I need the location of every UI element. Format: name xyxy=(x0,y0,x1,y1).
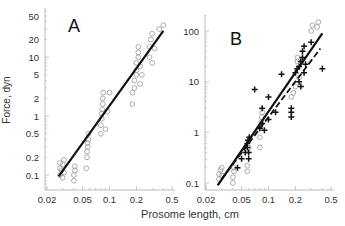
data-point-cross xyxy=(308,39,314,45)
x-tick-label: 0.1 xyxy=(262,194,275,205)
data-point-circle xyxy=(85,155,90,160)
data-point-circle xyxy=(132,86,137,91)
data-point-cross xyxy=(288,105,294,111)
data-point-circle xyxy=(136,50,141,55)
data-point-circle xyxy=(98,123,103,128)
x-tick-label: 0.05 xyxy=(73,194,92,205)
data-point-circle xyxy=(72,178,77,183)
data-point-circle xyxy=(100,96,105,101)
x-tick-label: 0.5 xyxy=(165,194,178,205)
data-point-circle xyxy=(72,173,77,178)
data-point-circle xyxy=(157,27,162,32)
data-point-circle xyxy=(150,31,155,36)
x-tick-label: 0.5 xyxy=(324,194,337,205)
y-tick-label: 0.1 xyxy=(186,178,199,189)
data-point-circle xyxy=(84,166,89,171)
x-tick-label: 0.02 xyxy=(38,194,57,205)
data-point-circle xyxy=(245,163,250,168)
y-tick-label: 1 xyxy=(194,127,199,138)
data-point-circle xyxy=(257,145,262,150)
data-point-circle xyxy=(98,131,103,136)
y-tick-label: 10 xyxy=(28,52,39,63)
panel-b: 0.11101000.020.050.10.20.5B xyxy=(183,15,337,205)
data-point-circle xyxy=(85,149,90,154)
data-point-circle xyxy=(132,78,137,83)
data-point-circle xyxy=(316,20,321,25)
data-point-circle xyxy=(130,102,135,107)
data-point-circle xyxy=(62,158,67,163)
data-point-circle xyxy=(310,23,315,28)
y-tick-label: 100 xyxy=(183,26,199,37)
panel-label: B xyxy=(230,29,242,49)
data-point-cross xyxy=(246,156,252,162)
x-tick-label: 0.02 xyxy=(197,194,216,205)
data-point-cross xyxy=(252,87,258,93)
y-tick-label: 2 xyxy=(34,93,39,104)
x-tick-label: 0.2 xyxy=(289,194,302,205)
data-point-circle xyxy=(257,135,262,140)
y-tick-label: 0.2 xyxy=(26,152,39,163)
data-point-circle xyxy=(231,181,236,186)
data-point-circle xyxy=(139,73,144,78)
data-point-circle xyxy=(101,90,106,95)
data-point-circle xyxy=(147,55,152,60)
x-tick-label: 0.1 xyxy=(103,194,116,205)
data-point-circle xyxy=(309,29,314,34)
data-point-circle xyxy=(136,44,141,49)
panel-label: A xyxy=(68,16,80,36)
data-point-circle xyxy=(315,25,320,30)
data-point-circle xyxy=(60,175,65,180)
data-point-circle xyxy=(134,73,139,78)
data-point-cross xyxy=(279,71,285,77)
panel-a: 0.10.20.51251020500.020.050.10.20.5A xyxy=(26,8,179,205)
data-point-circle xyxy=(148,37,153,42)
x-axis-label: Prosome length, cm xyxy=(141,208,239,220)
data-point-circle xyxy=(150,60,155,65)
x-tick-label: 0.05 xyxy=(232,194,251,205)
data-point-circle xyxy=(136,55,141,60)
data-point-cross xyxy=(259,105,265,111)
data-point-circle xyxy=(231,175,236,180)
y-tick-label: 1 xyxy=(34,111,39,122)
data-point-circle xyxy=(291,91,296,96)
data-point-circle xyxy=(245,169,250,174)
chart-canvas: 0.10.20.51251020500.020.050.10.20.5A 0.1… xyxy=(0,0,345,226)
data-point-cross xyxy=(319,66,325,72)
y-tick-label: 20 xyxy=(28,34,39,45)
y-tick-label: 5 xyxy=(34,69,39,80)
figure: 0.10.20.51251020500.020.050.10.20.5A 0.1… xyxy=(0,0,345,226)
data-point-cross xyxy=(246,149,252,155)
y-tick-label: 50 xyxy=(28,11,39,22)
y-tick-label: 0.5 xyxy=(26,128,39,139)
data-point-circle xyxy=(103,127,108,132)
data-point-circle xyxy=(107,90,112,95)
data-point-circle xyxy=(161,23,166,28)
data-point-circle xyxy=(138,82,143,87)
regression-line xyxy=(59,31,164,176)
data-point-cross xyxy=(266,94,272,100)
y-tick-label: 0.1 xyxy=(26,170,39,181)
y-tick-label: 10 xyxy=(188,76,199,87)
y-axis-label: Force, dyn xyxy=(1,76,12,123)
data-point-circle xyxy=(100,102,105,107)
x-tick-label: 0.2 xyxy=(130,194,143,205)
data-point-circle xyxy=(130,90,135,95)
